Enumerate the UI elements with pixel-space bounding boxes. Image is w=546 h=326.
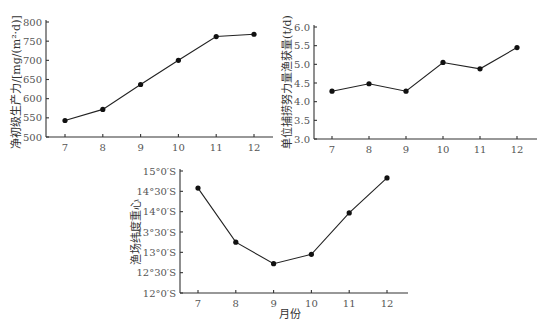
latitude-y-tick-label: 15°0′S [143, 166, 176, 177]
npp-data-point [176, 58, 181, 63]
latitude-x-tick-label: 10 [305, 298, 318, 309]
cpue-y-tick-label: 4.0 [294, 96, 310, 107]
cpue-series-line [332, 48, 517, 92]
npp-data-point [138, 82, 143, 87]
npp-y-tick-label: 650 [23, 74, 42, 85]
cpue-y-tick-label: 5.5 [294, 40, 310, 51]
latitude-y-tick-label: 13°0′S [143, 247, 176, 258]
latitude-series-line [198, 178, 387, 264]
npp-y-tick-label: 550 [23, 112, 42, 123]
latitude-x-tick-label: 9 [270, 298, 276, 309]
cpue-y-tick-label: 4.5 [294, 78, 310, 89]
cpue-chart: 单位捕捞努力量渔获量(t/d) 3.03.54.04.55.05.56.0789… [280, 15, 537, 155]
cpue-data-point [403, 89, 408, 94]
cpue-x-tick-label: 9 [403, 144, 409, 155]
latitude-data-point [195, 185, 200, 190]
cpue-y-tick-label: 5.0 [294, 59, 310, 70]
latitude-x-tick-label: 11 [343, 298, 356, 309]
cpue-data-point [440, 60, 445, 65]
latitude-y-tick-label: 12°0′S [143, 288, 176, 299]
cpue-data-point [329, 89, 334, 94]
latitude-y-tick-label: 12°30′S [136, 267, 176, 278]
npp-x-tick-label: 10 [172, 142, 185, 153]
npp-x-tick-label: 7 [62, 142, 68, 153]
cpue-y-tick-label: 6.0 [294, 22, 310, 33]
npp-x-tick-label: 12 [248, 142, 261, 153]
npp-y-tick-label: 800 [23, 17, 42, 28]
cpue-y-tick-label: 3.5 [294, 115, 310, 126]
cpue-x-tick-label: 8 [366, 144, 372, 155]
cpue-x-tick-label: 7 [329, 144, 335, 155]
latitude-x-axis-title: 月份 [279, 308, 301, 321]
npp-y-tick-label: 700 [23, 55, 42, 66]
npp-y-tick-label: 500 [23, 132, 42, 143]
cpue-data-point [366, 81, 371, 86]
cpue-y-tick-label: 3.0 [294, 134, 310, 145]
npp-x-tick-label: 11 [210, 142, 223, 153]
npp-data-point [214, 34, 219, 39]
cpue-x-tick-label: 12 [511, 144, 524, 155]
latitude-x-tick-label: 12 [381, 298, 394, 309]
cpue-x-tick-label: 10 [437, 144, 450, 155]
cpue-data-point [477, 66, 482, 71]
npp-x-tick-label: 8 [100, 142, 106, 153]
latitude-data-point [271, 261, 276, 266]
latitude-x-tick-label: 7 [195, 298, 201, 309]
latitude-y-tick-label: 14°30′S [136, 186, 176, 197]
npp-x-tick-label: 9 [137, 142, 143, 153]
npp-data-point [100, 107, 105, 112]
npp-data-point [251, 32, 256, 37]
npp-chart: 净初级生产力/[mg/(m²·d)] 500550600650700750800… [9, 15, 273, 153]
latitude-data-point [233, 240, 238, 245]
npp-data-point [62, 118, 67, 123]
latitude-data-point [309, 252, 314, 257]
latitude-chart: 渔场纬度重心 月份 12°0′S12°30′S13°0′S13°30′S14°0… [129, 166, 408, 322]
npp-series-line [65, 34, 254, 120]
latitude-y-tick-label: 14°0′S [143, 206, 176, 217]
cpue-data-point [514, 45, 519, 50]
npp-y-tick-label: 750 [23, 36, 42, 47]
cpue-x-tick-label: 11 [474, 144, 487, 155]
npp-y-tick-label: 600 [23, 93, 42, 104]
latitude-data-point [347, 210, 352, 215]
latitude-y-tick-label: 13°30′S [136, 227, 176, 238]
npp-y-axis-title: 净初级生产力/[mg/(m²·d)] [9, 15, 23, 148]
latitude-x-tick-label: 8 [233, 298, 239, 309]
latitude-data-point [384, 175, 389, 180]
cpue-y-axis-title: 单位捕捞努力量渔获量(t/d) [280, 15, 294, 149]
figure-canvas: 净初级生产力/[mg/(m²·d)] 500550600650700750800… [0, 0, 546, 326]
